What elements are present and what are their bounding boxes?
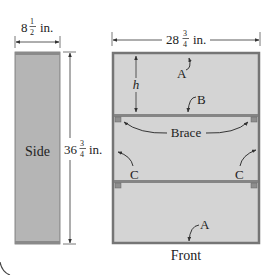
svg-text:in.: in. (40, 20, 53, 35)
brace-block-mid-right (251, 183, 257, 188)
svg-text:8: 8 (21, 20, 28, 35)
bookshelf-diagram: 8 1 2 in. Side 36 3 4 in. 28 (0, 0, 273, 275)
side-view: 8 1 2 in. Side 36 3 4 in. (15, 17, 102, 244)
svg-text:4: 4 (183, 40, 187, 49)
brace-label: Brace (171, 125, 202, 140)
side-label: Side (25, 144, 50, 159)
svg-text:28: 28 (166, 32, 179, 47)
part-a-bottom-label: A (200, 217, 210, 232)
brace-block-top-left (115, 117, 121, 122)
brace-block-top-right (251, 117, 257, 122)
part-a-top-label: A (177, 66, 187, 81)
svg-text:in.: in. (89, 142, 102, 157)
svg-text:36: 36 (64, 142, 78, 157)
part-c-right-label: C (235, 167, 244, 182)
brace-block-mid-left (115, 183, 121, 188)
part-c-left-label: C (130, 167, 139, 182)
shelf-b (114, 114, 258, 117)
part-b-label: B (197, 92, 206, 107)
frame-corner (0, 262, 10, 275)
svg-text:3: 3 (183, 29, 187, 38)
front-width-label: 28 3 4 in. (166, 29, 206, 49)
front-label: Front (171, 248, 201, 263)
svg-text:3: 3 (80, 139, 84, 148)
svg-text:2: 2 (30, 28, 34, 37)
front-view: 28 3 4 in. h A B Brace C (112, 29, 260, 263)
height-var-label: h (133, 77, 140, 92)
svg-text:4: 4 (80, 150, 84, 159)
side-width-label: 8 1 2 in. (21, 17, 53, 37)
svg-text:in.: in. (193, 32, 206, 47)
side-height-label: 36 3 4 in. (64, 139, 102, 159)
svg-text:1: 1 (30, 17, 34, 26)
